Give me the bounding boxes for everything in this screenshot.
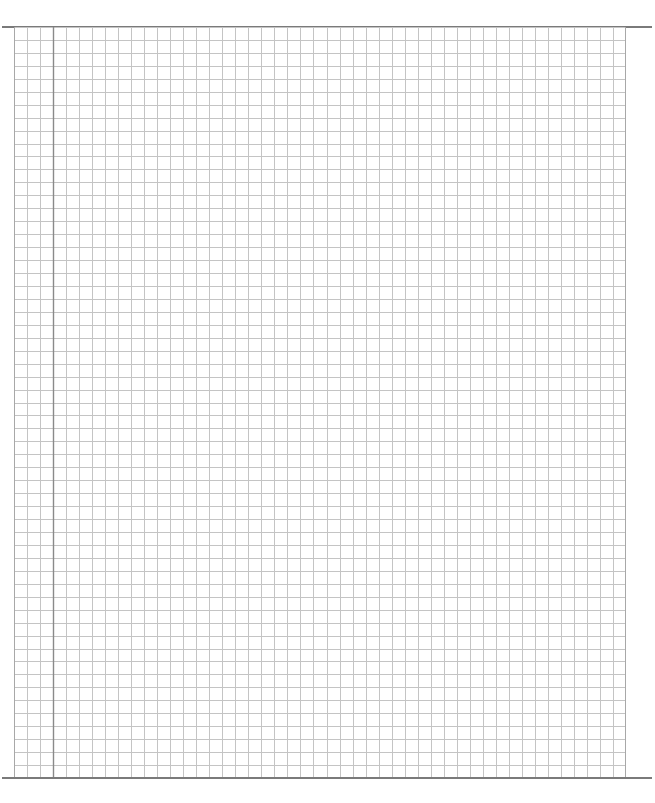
bottom-border-rule (2, 777, 652, 779)
graph-paper-page (0, 0, 655, 803)
graph-grid (14, 27, 626, 778)
grid-lines (14, 27, 626, 778)
